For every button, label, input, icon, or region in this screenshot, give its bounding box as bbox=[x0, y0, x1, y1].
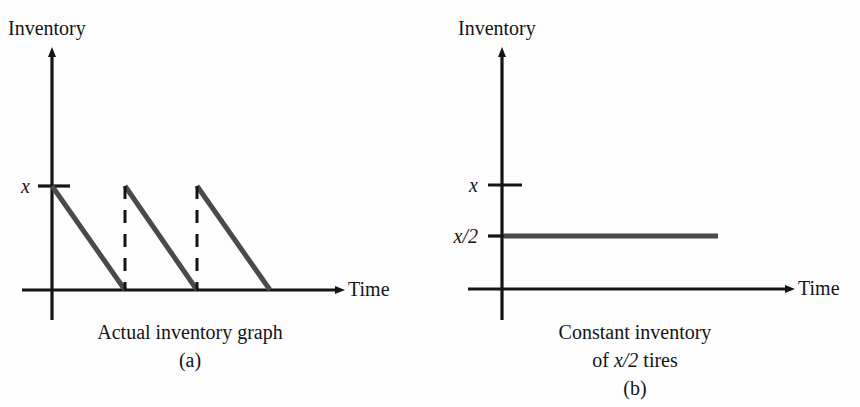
panel-b-y-axis-label: Inventory bbox=[458, 18, 536, 38]
panel-a-sawtooth-segment-1 bbox=[52, 186, 125, 290]
panel-b-caption-label: (b) bbox=[470, 376, 800, 401]
inventory-comparison-figure: Inventory Time x Actual inventory graph … bbox=[0, 0, 860, 407]
panel-b-caption-math: x/2 bbox=[614, 349, 638, 371]
panel-a-sawtooth-segment-2 bbox=[125, 186, 197, 290]
panel-b-tick-label-x-over-2: x/2 bbox=[438, 226, 478, 246]
panel-a-sawtooth-series bbox=[52, 186, 270, 290]
panel-b-caption-prefix: of bbox=[592, 349, 614, 371]
panel-a-sawtooth-segment-3 bbox=[197, 186, 270, 290]
panel-b-x-axis-label: Time bbox=[798, 278, 840, 298]
panel-a-y-axis-label: Inventory bbox=[8, 18, 86, 38]
panel-a-caption-line-1: Actual inventory graph bbox=[20, 320, 360, 345]
panel-b-caption-line-1: Constant inventory bbox=[470, 320, 800, 345]
panel-b-caption-line-2: of x/2 tires bbox=[470, 348, 800, 373]
panel-a-x-axis-label: Time bbox=[348, 279, 390, 299]
panel-a-caption-label: (a) bbox=[20, 348, 360, 373]
panel-a-graphics bbox=[0, 0, 860, 407]
panel-b-caption-suffix: tires bbox=[638, 349, 677, 371]
panel-a-tick-label-x: x bbox=[6, 176, 30, 196]
panel-a-axes bbox=[22, 56, 336, 320]
panel-b-tick-label-x: x bbox=[450, 175, 478, 195]
panel-b-axes bbox=[468, 56, 786, 320]
